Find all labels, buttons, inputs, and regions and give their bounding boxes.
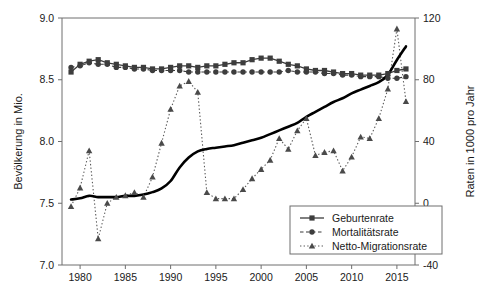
marker-net-migration-rate [131,189,137,195]
y2-tick-label: 120 [423,12,441,24]
y-tick-label: 8.5 [39,73,54,85]
marker-net-migration-rate [276,135,282,141]
x-tick-label: 2000 [249,271,273,283]
x-tick-label: 1985 [114,271,138,283]
marker-birth-rate [204,63,209,68]
marker-net-migration-rate [95,236,101,242]
marker-net-migration-rate [167,106,173,112]
marker-mortality-rate [159,68,164,73]
population-line [71,46,406,199]
y-axis-ticks: 7.07.58.08.59.0 [39,12,62,271]
marker-mortality-rate [376,74,381,79]
legend-label-mortality-rate: Mortalitätsrate [332,226,399,238]
marker-birth-rate [277,59,282,64]
marker-birth-rate [213,63,218,68]
legend-marker-mortality-rate [309,229,314,234]
marker-mortality-rate [186,69,191,74]
x-tick-label: 2010 [340,271,364,283]
marker-mortality-rate [403,74,408,79]
marker-net-migration-rate [249,175,255,181]
y2-tick-label: 80 [423,73,435,85]
marker-mortality-rate [204,69,209,74]
marker-birth-rate [403,66,408,71]
y-axis-label: Bevölkerung in Mio. [12,93,24,190]
marker-mortality-rate [150,68,155,73]
x-tick-label: 1990 [159,271,183,283]
legend-label-birth-rate: Geburtenrate [332,212,394,224]
marker-net-migration-rate [385,86,391,92]
marker-birth-rate [195,65,200,70]
marker-mortality-rate [222,69,227,74]
marker-mortality-rate [114,65,119,70]
marker-mortality-rate [77,63,82,68]
chart-container: 7.07.58.08.59.0 -4004080120 198019851990… [0,0,495,295]
marker-net-migration-rate [339,168,345,174]
marker-mortality-rate [367,74,372,79]
marker-mortality-rate [258,69,263,74]
marker-mortality-rate [168,68,173,73]
marker-mortality-rate [195,69,200,74]
marker-birth-rate [96,57,101,62]
marker-mortality-rate [277,69,282,74]
marker-net-migration-rate [348,154,354,160]
marker-net-migration-rate [321,149,327,155]
x-tick-label: 2015 [385,271,409,283]
population-curve [71,46,406,199]
marker-mortality-rate [286,68,291,73]
y-tick-label: 7.5 [39,197,54,209]
y2-axis-label: Raten in 1000 pro Jahr [464,85,476,197]
marker-net-migration-rate [158,140,164,146]
marker-net-migration-rate [330,148,336,154]
marker-mortality-rate [141,66,146,71]
marker-net-migration-rate [258,166,264,172]
marker-net-migration-rate [195,89,201,95]
marker-net-migration-rate [68,203,74,209]
marker-birth-rate [68,69,73,74]
marker-mortality-rate [249,69,254,74]
marker-mortality-rate [322,71,327,76]
x-axis-ticks: 19801985199019952000200520102015 [68,265,408,283]
y2-tick-label: -40 [423,259,438,271]
chart-legend: GeburtenrateMortalitätsrateNetto-Migrati… [290,206,442,254]
marker-mortality-rate [123,65,128,70]
marker-birth-rate [394,68,399,73]
y-tick-label: 9.0 [39,12,54,24]
marker-net-migration-rate [104,200,110,206]
marker-birth-rate [268,56,273,61]
marker-mortality-rate [295,69,300,74]
marker-mortality-rate [313,69,318,74]
marker-net-migration-rate [403,98,409,104]
marker-net-migration-rate [357,134,363,140]
legend-marker-birth-rate [309,215,314,220]
marker-mortality-rate [394,76,399,81]
marker-net-migration-rate [285,146,291,152]
marker-birth-rate [177,63,182,68]
marker-mortality-rate [68,65,73,70]
marker-mortality-rate [105,62,110,67]
marker-mortality-rate [86,60,91,65]
x-tick-label: 1980 [68,271,92,283]
marker-birth-rate [295,63,300,68]
marker-net-migration-rate [394,26,400,32]
marker-mortality-rate [177,68,182,73]
marker-mortality-rate [213,69,218,74]
marker-mortality-rate [331,71,336,76]
marker-birth-rate [385,71,390,76]
marker-birth-rate [186,63,191,68]
marker-net-migration-rate [204,189,210,195]
marker-birth-rate [240,60,245,65]
marker-net-migration-rate [77,185,83,191]
marker-net-migration-rate [86,148,92,154]
marker-net-migration-rate [312,152,318,158]
marker-mortality-rate [231,69,236,74]
marker-birth-rate [231,60,236,65]
marker-mortality-rate [132,66,137,71]
marker-mortality-rate [267,69,272,74]
marker-mortality-rate [358,74,363,79]
x-tick-label: 2005 [295,271,319,283]
y2-tick-label: 40 [423,135,435,147]
marker-net-migration-rate [231,195,237,201]
marker-mortality-rate [385,76,390,81]
marker-mortality-rate [340,72,345,77]
population-rates-chart: 7.07.58.08.59.0 -4004080120 198019851990… [0,0,495,295]
